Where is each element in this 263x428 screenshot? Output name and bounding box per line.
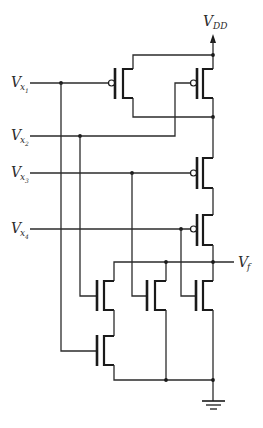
input-label-x1: V x 1 bbox=[11, 74, 29, 94]
tap-x3 bbox=[132, 173, 147, 296]
node-out bbox=[211, 260, 215, 264]
output-label: V f bbox=[238, 254, 252, 272]
svg-text:3: 3 bbox=[25, 177, 29, 184]
nmos-x3 bbox=[147, 280, 166, 311]
input-label-x2: V x 2 bbox=[11, 127, 29, 147]
input-label-x3: V x 3 bbox=[11, 164, 29, 184]
pmos-x2 bbox=[191, 68, 214, 99]
input-wire-x2 bbox=[30, 83, 190, 136]
nmos-x2 bbox=[97, 280, 114, 311]
pu-top-rail bbox=[133, 55, 213, 69]
svg-text:1: 1 bbox=[25, 87, 29, 94]
pmos-x3 bbox=[191, 157, 214, 189]
nmos-x4 bbox=[196, 280, 213, 311]
svg-text:4: 4 bbox=[24, 233, 29, 240]
pmos-x1 bbox=[109, 68, 134, 99]
tap-x2 bbox=[80, 136, 97, 296]
node-gnd bbox=[211, 378, 215, 382]
input-label-x4: V x 4 bbox=[11, 220, 29, 240]
ground-rail bbox=[114, 365, 213, 380]
tap-x1 bbox=[61, 83, 97, 351]
pu-bottom-rail bbox=[133, 98, 213, 117]
svg-text:f: f bbox=[246, 262, 252, 272]
vdd-label: V DD bbox=[203, 13, 227, 31]
svg-text:2: 2 bbox=[24, 140, 29, 147]
node-out-mid bbox=[164, 260, 168, 264]
node-vdd bbox=[211, 53, 215, 57]
pmos-x4 bbox=[191, 214, 214, 246]
ground-icon bbox=[202, 401, 225, 409]
node-gnd-mid bbox=[164, 378, 168, 382]
cmos-schematic: V DD V x 1 V x 2 V bbox=[0, 0, 263, 428]
svg-text:DD: DD bbox=[212, 21, 227, 31]
nmos-x1 bbox=[97, 335, 114, 366]
